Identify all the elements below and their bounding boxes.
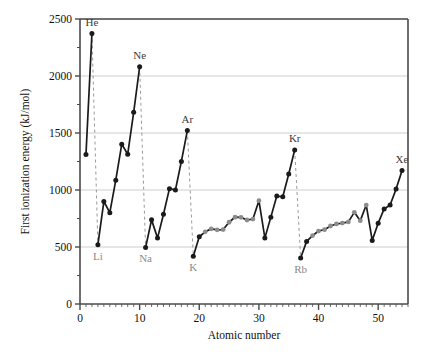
data-point-period1-2 [89,31,94,36]
data-point-period2-10 [137,64,142,69]
annotation-Rb: Rb [294,263,307,275]
data-point-period5-48 [364,203,369,208]
data-point-period4-35 [286,172,291,177]
data-point-period5-44 [340,221,345,226]
data-point-period3-13 [155,236,160,241]
data-point-period2-4 [101,199,106,204]
y-tick-label: 2500 [49,13,72,25]
data-point-period4-36 [292,147,297,152]
data-point-period5-43 [334,222,339,227]
data-point-period4-20 [197,234,202,239]
data-point-period3-16 [173,188,178,193]
data-point-period5-54 [400,168,405,173]
ionization-energy-chart: 0500100015002000250001020304050Atomic nu… [0,0,427,356]
data-point-period2-5 [107,210,112,215]
annotation-Xe: Xe [396,153,409,165]
data-point-period3-15 [167,186,172,191]
data-point-period5-47 [358,218,363,223]
series-line-period2 [98,67,140,245]
data-point-period4-30 [257,198,262,203]
series-line-period3 [146,131,188,248]
dropline-Ar-to-K [187,131,193,257]
y-tick-label: 0 [66,298,72,310]
data-point-period4-27 [239,215,244,220]
data-point-period5-52 [388,202,393,207]
data-point-period4-34 [280,194,285,199]
data-point-period5-49 [370,238,375,243]
y-tick-label: 1000 [49,184,72,196]
data-point-period4-31 [262,235,267,240]
data-point-period2-9 [131,110,136,115]
x-axis-title: Atomic number [208,329,281,341]
x-tick-label: 40 [313,312,325,324]
annotation-Li: Li [93,250,103,262]
data-point-period5-46 [352,210,357,215]
y-tick-label: 1500 [49,127,72,139]
data-point-period2-8 [125,152,130,157]
data-point-period4-22 [209,226,214,231]
data-point-period4-32 [268,215,273,220]
annotation-Ar: Ar [182,113,194,125]
data-point-period3-14 [161,212,166,217]
data-point-period1-1 [83,152,88,157]
data-point-period4-33 [274,194,279,199]
series-line-period4 [193,150,294,256]
data-point-period5-51 [382,206,387,211]
x-tick-label: 20 [194,312,206,324]
data-point-period3-18 [185,128,190,133]
annotation-Ne: Ne [133,49,146,61]
data-point-period4-24 [221,227,226,232]
x-tick-label: 10 [134,312,146,324]
annotation-Kr: Kr [289,132,301,144]
dropline-Kr-to-Rb [295,150,301,258]
data-point-period4-19 [191,254,196,259]
dropline-Ne-to-Na [140,67,146,248]
x-tick-label: 50 [372,312,384,324]
data-point-period3-12 [149,217,154,222]
annotation-K: K [189,261,197,273]
x-tick-label: 0 [77,312,83,324]
data-point-period4-26 [233,215,238,220]
data-point-period5-39 [310,233,315,238]
data-point-period2-7 [119,142,124,147]
y-tick-label: 500 [55,241,73,253]
data-point-period5-45 [346,220,351,225]
data-point-period4-25 [227,220,232,225]
annotation-He: He [86,16,99,28]
data-point-period5-41 [322,227,327,232]
data-point-period2-6 [113,178,118,183]
x-tick-label: 30 [253,312,265,324]
data-point-period5-42 [328,224,333,229]
series-line-period1 [86,34,92,155]
data-point-period4-29 [251,217,256,222]
data-point-period3-11 [143,245,148,250]
data-point-period4-28 [245,218,250,223]
data-point-period4-21 [203,229,208,234]
data-point-period4-23 [215,227,220,232]
data-point-period5-40 [316,229,321,234]
y-axis-title: First ionization energy (kJ/mol) [19,88,32,234]
data-point-period5-50 [376,221,381,226]
chart-canvas: 0500100015002000250001020304050Atomic nu… [0,0,427,356]
y-tick-label: 2000 [49,70,72,82]
data-point-period5-38 [304,239,309,244]
dropline-He-to-Li [92,34,98,245]
series-line-period5 [301,171,402,258]
annotation-Na: Na [139,252,152,264]
data-point-period5-37 [298,256,303,261]
data-point-period5-53 [394,187,399,192]
data-point-period3-17 [179,159,184,164]
data-point-period2-3 [95,242,100,247]
